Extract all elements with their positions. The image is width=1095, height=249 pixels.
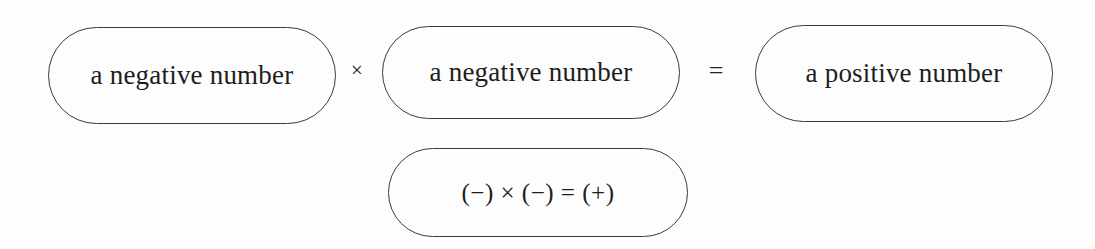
capsule-label: a negative number xyxy=(430,59,633,86)
capsule-label: a negative number xyxy=(91,62,294,89)
sign-rule-diagram: a negative number × a negative number = … xyxy=(0,0,1095,249)
capsule-negative-number-first: a negative number xyxy=(48,27,336,124)
capsule-symbolic-formula: (−) × (−) = (+) xyxy=(388,148,688,237)
capsule-positive-number: a positive number xyxy=(755,25,1053,122)
equals-sign-icon: = xyxy=(698,58,734,84)
capsule-negative-number-second: a negative number xyxy=(382,26,680,119)
multiplication-sign-icon: × xyxy=(340,60,374,81)
capsule-label: (−) × (−) = (+) xyxy=(462,180,615,205)
capsule-label: a positive number xyxy=(806,60,1003,87)
